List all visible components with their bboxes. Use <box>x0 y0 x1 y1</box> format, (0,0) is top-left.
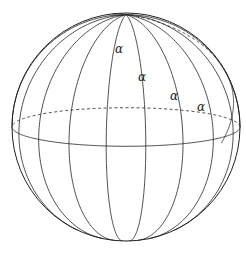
angle-labels: α α α α <box>115 42 205 114</box>
meridian <box>12 15 126 127</box>
sphere-diagram: α α α α <box>0 0 246 255</box>
meridian-lines <box>12 15 240 241</box>
angle-label-alpha-2: α <box>138 70 146 84</box>
equator-front <box>12 127 240 146</box>
meridian <box>126 15 213 239</box>
angle-label-alpha-4: α <box>197 100 205 114</box>
meridian <box>126 15 233 230</box>
angle-label-alpha-1: α <box>115 42 123 56</box>
meridian <box>126 15 146 241</box>
equator-line <box>12 108 240 147</box>
meridian <box>39 15 126 239</box>
equator-back <box>12 108 240 127</box>
loxodrome-front <box>221 70 233 143</box>
meridian <box>126 15 183 241</box>
meridian <box>19 15 126 230</box>
angle-label-alpha-3: α <box>170 89 178 103</box>
loxodrome-figure: α α α α <box>0 0 246 255</box>
